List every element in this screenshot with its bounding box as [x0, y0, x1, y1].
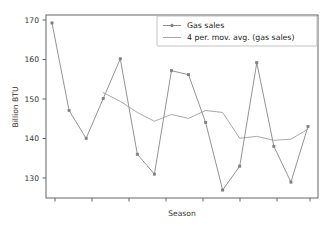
- x-axis-title: Season: [168, 209, 196, 218]
- legend-marker-dot-gas-sales: [171, 24, 174, 27]
- data-point: [273, 145, 275, 147]
- y-tick-label-160: 160: [25, 55, 40, 64]
- data-point: [68, 109, 70, 111]
- y-tick-label-140: 140: [25, 134, 40, 143]
- y-tick-label-170: 170: [25, 16, 40, 25]
- data-point: [290, 181, 292, 183]
- y-tick-label-150: 150: [25, 95, 40, 104]
- data-point: [85, 137, 87, 139]
- data-point: [51, 22, 53, 24]
- data-point: [205, 121, 207, 123]
- y-axis-ticks: 130 140 150 160 170: [25, 16, 47, 183]
- data-point: [170, 70, 172, 72]
- data-point: [119, 58, 121, 60]
- chart-legend: Gas sales 4 per. mov. avg. (gas sales): [157, 16, 317, 46]
- data-point: [239, 165, 241, 167]
- data-point: [153, 173, 155, 175]
- legend-label-moving-average: 4 per. mov. avg. (gas sales): [187, 33, 294, 42]
- data-point: [222, 189, 224, 191]
- data-point: [102, 97, 104, 99]
- y-axis-title: Billion BTU: [11, 87, 20, 128]
- x-axis-ticks: [55, 198, 310, 202]
- y-tick-label-130: 130: [25, 174, 40, 183]
- chart-figure: 130 140 150 160 170 Season Billion BTU: [0, 0, 331, 229]
- data-point: [307, 125, 309, 127]
- data-point: [136, 153, 138, 155]
- gas-sales-line-chart: 130 140 150 160 170 Season Billion BTU: [0, 0, 331, 229]
- data-point: [256, 62, 258, 64]
- data-point: [187, 74, 189, 76]
- legend-label-gas-sales: Gas sales: [187, 21, 224, 30]
